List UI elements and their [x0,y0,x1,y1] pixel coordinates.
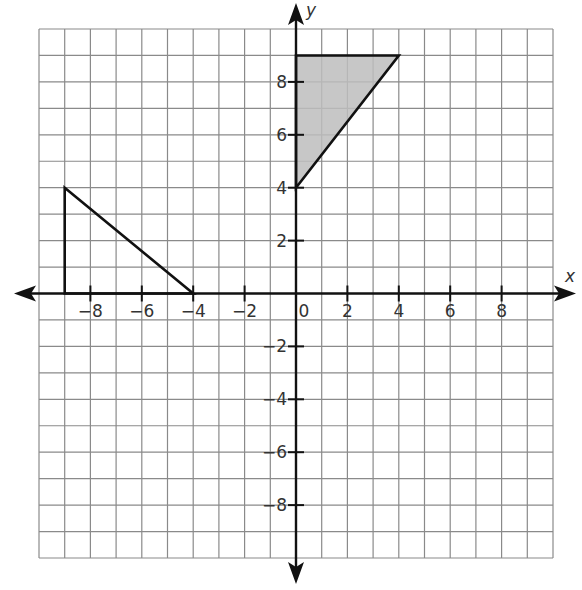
y-tick-label: −8 [262,495,287,515]
x-tick-label: 0 [299,301,310,321]
x-axis-label: x [564,266,576,286]
shapes [65,55,399,293]
y-tick-label: 4 [276,178,287,198]
y-tick-label: 8 [276,72,287,92]
y-tick-label: 6 [276,125,287,145]
x-tick-label: −8 [78,301,103,321]
x-tick-label: −2 [232,301,257,321]
y-tick-label: −6 [262,442,287,462]
x-tick-label: 4 [393,301,404,321]
x-tick-label: 2 [342,301,353,321]
y-tick-label: −4 [262,389,287,409]
y-tick-label: 2 [276,231,287,251]
axes [14,3,576,584]
x-tick-label: 6 [445,301,456,321]
x-tick-label: −6 [129,301,154,321]
y-axis-label: y [305,0,317,20]
x-tick-label: −4 [181,301,206,321]
y-tick-label: −2 [262,336,287,356]
x-tick-label: 8 [496,301,507,321]
coordinate-plane: −8−6−4−202468−8−6−4−22468xy [0,0,582,590]
